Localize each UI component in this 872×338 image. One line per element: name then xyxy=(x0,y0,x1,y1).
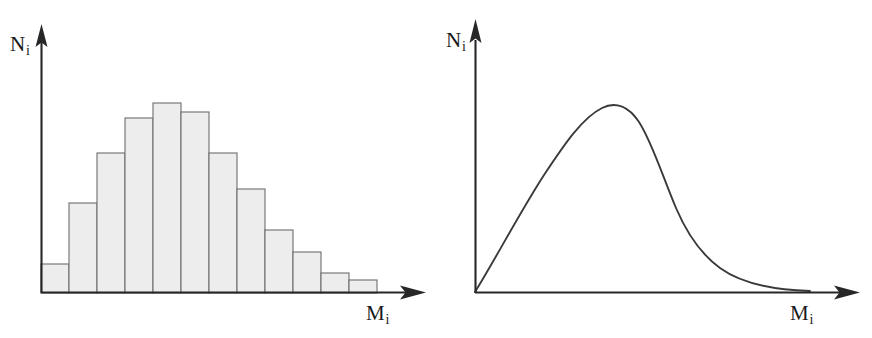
curve-plot-area xyxy=(436,0,872,338)
histogram-bar xyxy=(153,103,181,293)
histogram-plot-area xyxy=(0,0,436,338)
figure-root: Ni Mi Ni Mi xyxy=(0,0,872,338)
histogram-bar xyxy=(321,273,349,293)
curve-y-axis-label-main: N xyxy=(446,28,461,52)
histogram-x-axis-label-main: M xyxy=(366,301,385,325)
curve-y-axis-label: Ni xyxy=(446,30,466,54)
histogram-y-axis-label-subscript: i xyxy=(26,43,30,58)
histogram-bar xyxy=(293,252,321,293)
histogram-bar xyxy=(265,230,293,293)
histogram-bar xyxy=(349,280,377,293)
histogram-bar xyxy=(97,153,125,293)
curve-y-axis-label-subscript: i xyxy=(462,39,466,54)
histogram-bar xyxy=(181,112,209,293)
histogram-y-axis-label-main: N xyxy=(10,32,25,56)
histogram-bar xyxy=(69,203,97,293)
histogram-y-axis xyxy=(36,24,48,293)
histogram-y-axis-label: Ni xyxy=(10,34,30,58)
histogram-x-axis-label: Mi xyxy=(366,303,389,327)
histogram-x-axis-label-subscript: i xyxy=(385,312,389,327)
histogram-bar xyxy=(209,153,237,293)
curve-y-axis xyxy=(470,19,482,293)
curve-x-axis-label-main: M xyxy=(790,301,809,325)
histogram-bar xyxy=(125,118,153,293)
curve-x-axis xyxy=(475,286,860,300)
curve-panel: Ni Mi xyxy=(436,0,872,338)
histogram-bar xyxy=(41,264,69,293)
distribution-curve xyxy=(475,105,810,292)
curve-x-axis-label-subscript: i xyxy=(809,312,813,327)
histogram-bar xyxy=(237,189,265,293)
histogram-bars xyxy=(41,103,377,293)
curve-x-axis-label: Mi xyxy=(790,303,813,327)
y-axis-arrowhead-icon xyxy=(470,19,482,43)
histogram-panel: Ni Mi xyxy=(0,0,436,338)
